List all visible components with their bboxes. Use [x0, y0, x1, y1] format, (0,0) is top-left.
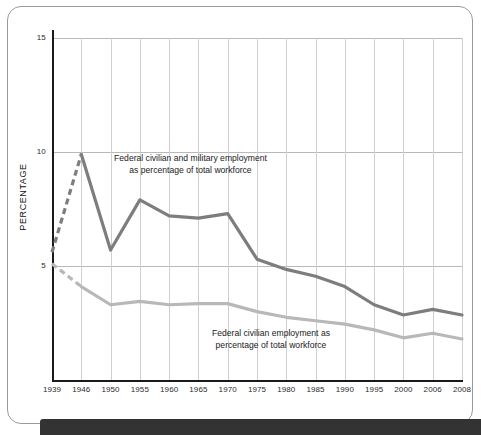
y-tick-label: 15 [24, 33, 46, 42]
x-tick-label: 2008 [447, 385, 477, 394]
x-tick-label: 1980 [271, 385, 301, 394]
x-tick-label: 1985 [301, 385, 331, 394]
x-tick-label: 1960 [154, 385, 184, 394]
series-line-dashed-1 [52, 264, 81, 287]
x-tick-label: 2006 [418, 385, 448, 394]
x-tick-label: 1955 [125, 385, 155, 394]
chart-page: PERCENTAGE 15105 19391946195019551960196… [0, 0, 481, 435]
annotation-federal-civilian: Federal civilian employment as percentag… [185, 327, 357, 351]
x-tick-label: 2000 [388, 385, 418, 394]
x-tick-label: 1965 [183, 385, 213, 394]
y-tick-label: 10 [24, 147, 46, 156]
x-tick-label: 1970 [213, 385, 243, 394]
x-tick-label: 1950 [96, 385, 126, 394]
series-line-0 [81, 154, 462, 315]
x-tick-label: 1939 [37, 385, 67, 394]
y-tick-label: 5 [24, 261, 46, 270]
x-tick-label: 1990 [330, 385, 360, 394]
series-line-dashed-0 [52, 154, 81, 252]
line-chart: PERCENTAGE 15105 19391946195019551960196… [0, 0, 481, 400]
x-tick-label: 1975 [242, 385, 272, 394]
annotation-federal-civilian-and-military: Federal civilian and military employment… [88, 152, 293, 176]
x-tick-label: 1995 [359, 385, 389, 394]
footer-bar [40, 419, 481, 435]
series-paths [52, 154, 462, 339]
x-tick-label: 1946 [66, 385, 96, 394]
